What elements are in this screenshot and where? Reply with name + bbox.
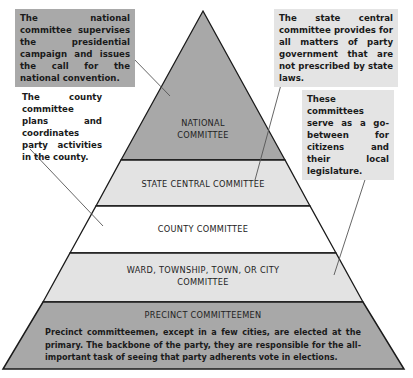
level-label-state-central: STATE CENTRAL COMMITTEE xyxy=(103,178,303,190)
level-label-ward: WARD, TOWNSHIP, TOWN, OR CITY COMMITTEE xyxy=(78,264,328,288)
level-label-national: NATIONAL COMMITTEE xyxy=(153,117,253,141)
level-label-ward-line1: WARD, TOWNSHIP, TOWN, OR CITY xyxy=(78,264,328,276)
state-central-committee-note: The state central committee provides for… xyxy=(274,9,398,87)
level-label-national-line2: COMMITTEE xyxy=(153,129,253,141)
level-label-national-line1: NATIONAL xyxy=(153,117,253,129)
level-label-ward-line2: COMMITTEE xyxy=(78,276,328,288)
precinct-description: Precinct committeemen, except in a few c… xyxy=(45,326,361,364)
national-committee-note: The national committee supervises the pr… xyxy=(15,9,135,87)
ward-committees-note: These committees serve as a go-between f… xyxy=(302,90,394,180)
leader-line-national xyxy=(133,58,170,96)
level-label-precinct: PRECINCT COMMITTEEMEN xyxy=(103,309,303,321)
county-committee-note: The county committee plans and coordinat… xyxy=(22,91,102,163)
level-label-county: COUNTY COMMITTEE xyxy=(103,223,303,235)
